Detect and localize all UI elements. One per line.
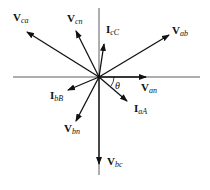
phasor-v-bc-label: Vbc — [107, 155, 123, 169]
phasor-i-bb-label: IbB — [50, 89, 63, 103]
phasor-layer — [27, 31, 169, 164]
theta-arc — [111, 77, 114, 86]
phasor-v-bn-arrow — [76, 77, 99, 121]
phasor-i-cc-arrow — [99, 44, 104, 77]
phasor-v-an-label: Van — [141, 81, 157, 95]
phasor-v-ab-arrow — [99, 35, 169, 77]
phasor-v-cn-label: Vcn — [67, 12, 83, 26]
origin-point — [97, 75, 101, 79]
phasor-i-bb-arrow — [68, 77, 99, 90]
phasor-diagram: VcaVcnIcCVabVanIaAIbBVbnVbc θ — [0, 0, 210, 190]
phasor-i-aa-label: IaA — [134, 102, 147, 116]
phasor-i-cc-label: IcC — [106, 23, 120, 37]
theta-label: θ — [115, 80, 120, 91]
phasor-v-ab-label: Vab — [172, 24, 188, 38]
phasor-v-ca-label: Vca — [13, 11, 29, 25]
phasor-v-bn-label: Vbn — [64, 122, 80, 136]
label-layer: VcaVcnIcCVabVanIaAIbBVbnVbc — [13, 11, 188, 169]
phasor-i-aa-arrow — [99, 77, 127, 101]
